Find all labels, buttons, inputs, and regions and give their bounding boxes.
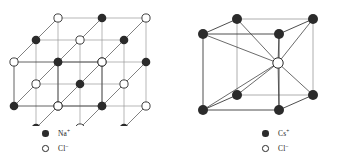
ion-cl — [142, 14, 150, 22]
ion-cl — [120, 80, 128, 88]
sodium-chloride-panel — [0, 0, 180, 168]
legend-row-cl: Cl– — [262, 141, 289, 156]
cscl-depth-edges — [203, 19, 313, 110]
charge-superscript: + — [286, 127, 289, 133]
open-circle-icon — [262, 145, 275, 152]
ion-cl — [54, 102, 62, 110]
ion-cs — [232, 90, 242, 100]
filled-circle-icon — [42, 130, 55, 137]
cscl-corner-ions — [198, 14, 318, 115]
legend-row-na: Na+ — [42, 126, 70, 141]
legend-row-cl: Cl– — [42, 141, 70, 156]
ion-cs — [198, 105, 208, 115]
cscl-legend: Cs+ Cl– — [262, 126, 289, 156]
ion-cl — [10, 58, 18, 66]
cscl-lattice-diagram — [180, 0, 360, 126]
ion-cs — [274, 105, 284, 115]
nacl-lattice-diagram — [0, 0, 180, 126]
ion-cl — [32, 80, 40, 88]
ion-na — [142, 58, 151, 67]
ion-cl — [76, 36, 84, 44]
filled-circle-icon — [262, 130, 275, 137]
charge-superscript: + — [67, 127, 70, 133]
nacl-legend: Na+ Cl– — [42, 126, 70, 156]
ion-na — [54, 58, 63, 67]
ion-na — [98, 14, 107, 23]
ion-cl — [98, 58, 106, 66]
open-circle-icon — [42, 145, 55, 152]
ion-na — [120, 36, 129, 45]
legend-row-cs: Cs+ — [262, 126, 289, 141]
ion-na — [76, 80, 85, 89]
ion-cs — [274, 29, 284, 39]
charge-superscript: – — [285, 142, 288, 148]
legend-label-na: Na+ — [55, 130, 70, 137]
ion-na — [32, 36, 41, 45]
legend-label-cs: Cs+ — [275, 130, 289, 137]
crystal-structure-figure: Na+ Cl– Cs+ Cl– — [0, 0, 360, 168]
ion-cl — [54, 14, 62, 22]
legend-label-cl: Cl– — [55, 145, 68, 152]
ion-cs — [308, 14, 318, 24]
ion-cl — [76, 124, 84, 126]
ion-cs — [308, 90, 318, 100]
cscl-front-edges — [203, 34, 279, 110]
ion-cl-center — [273, 58, 283, 68]
charge-superscript: – — [65, 142, 68, 148]
ion-cs — [198, 29, 208, 39]
legend-label-cl: Cl– — [275, 145, 288, 152]
cscl-back-edges — [237, 19, 313, 95]
ion-na — [98, 102, 107, 111]
ion-na — [10, 102, 19, 111]
cscl-coordination-bonds — [203, 19, 313, 110]
ion-cs — [232, 14, 242, 24]
ion-cl — [142, 102, 150, 110]
